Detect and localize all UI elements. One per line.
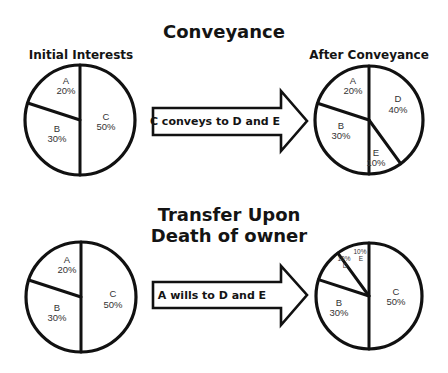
pie-after-transfer: B 30% C 50% 10% D 10% E [316,243,422,349]
slice-c-percent: 50% [103,299,123,310]
slice-c-percent: 50% [386,296,406,307]
conveyance-title: Conveyance [163,21,285,42]
pie-after-conveyance: A 20% B 30% D 40% E 10% [315,66,423,174]
transfer-title-line1: Transfer Upon [158,204,301,225]
slice-d-percent: 40% [388,104,408,115]
pie-before-transfer: A 20% B 30% C 50% [26,242,136,352]
initial-interests-heading: Initial Interests [29,48,133,62]
slice-d-owner: D [343,262,348,269]
slice-d-percent: 10% [337,255,350,262]
slice-a-percent: 20% [56,85,76,96]
slice-e-percent: 10% [353,248,366,255]
slice-d-owner: D [395,93,402,104]
arrow-transfer: A wills to D and E [153,266,307,325]
arrow-label: C conveys to D and E [150,115,280,128]
slice-c-owner: C [110,288,117,299]
transfer-title-line2: Death of owner [151,225,307,246]
slice-b-percent: 30% [329,307,349,318]
slice-b-percent: 30% [47,133,67,144]
slice-b-percent: 30% [331,130,351,141]
after-conveyance-heading: After Conveyance [309,48,429,62]
slice-b-percent: 30% [47,312,67,323]
slice-a-percent: 20% [343,85,363,96]
arrow-conveyance: C conveys to D and E [150,91,307,151]
slice-e-owner: E [359,255,364,262]
slice-e-percent: 10% [366,157,386,168]
ownership-diagram: Conveyance Initial Interests After Conve… [0,0,448,373]
arrow-label: A wills to D and E [158,289,266,302]
slice-a-percent: 20% [57,264,77,275]
pie-initial-interests: A 20% B 30% C 50% [25,65,135,175]
slice-c-percent: 50% [96,121,116,132]
